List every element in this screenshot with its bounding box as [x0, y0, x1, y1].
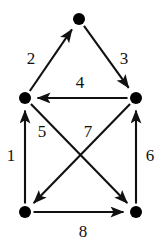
- edge-label-2: 2: [27, 50, 36, 67]
- node-bottom-left: [19, 206, 31, 218]
- edge-2: [30, 29, 72, 91]
- graph-canvas: [0, 0, 163, 245]
- edge-5: [31, 104, 127, 203]
- edge-label-7: 7: [84, 123, 93, 140]
- edge-label-5: 5: [38, 123, 47, 140]
- edge-label-8: 8: [79, 223, 88, 240]
- node-left-middle: [19, 92, 31, 104]
- edge-label-4: 4: [76, 74, 85, 91]
- node-bottom-right: [130, 206, 142, 218]
- edge-7: [34, 104, 130, 203]
- directed-graph-figure: 12345678: [0, 0, 163, 245]
- node-top: [73, 13, 85, 25]
- edge-label-1: 1: [7, 147, 16, 164]
- nodes-group: [19, 13, 142, 218]
- edge-label-3: 3: [120, 50, 129, 67]
- edge-label-6: 6: [146, 147, 155, 164]
- node-right-middle: [130, 92, 142, 104]
